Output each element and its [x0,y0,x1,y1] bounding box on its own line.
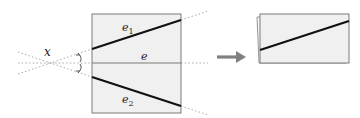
upper-ray-ext [181,11,208,20]
right-arrow-icon [217,51,246,63]
upper-angle-arc [78,53,81,62]
lower-ray [18,52,92,77]
diagram-canvas: x e e1 e2 [0,0,360,118]
label-x: x [44,45,51,59]
label-e: e [141,50,148,63]
upper-ray [18,49,92,74]
lower-angle-arc [78,64,81,73]
lower-ray-ext [181,106,208,115]
result-box [260,14,349,63]
